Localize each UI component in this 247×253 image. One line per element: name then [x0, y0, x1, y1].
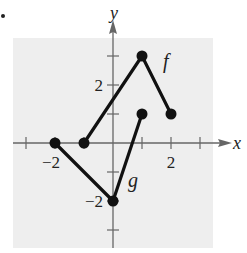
series-g-point [50, 138, 61, 149]
function-graph: −222−2xyfg [0, 0, 247, 253]
y-tick-label: −2 [85, 192, 103, 211]
x-tick-label: 2 [167, 153, 176, 172]
series-g-point [137, 109, 148, 120]
x-axis-label: x [232, 133, 241, 153]
x-axis-arrow-icon [218, 139, 232, 147]
x-tick-label: −2 [42, 153, 60, 172]
bullet-marker [1, 14, 5, 18]
y-tick-label: 2 [95, 76, 104, 95]
y-axis-label: y [108, 3, 118, 23]
series-g-point [108, 196, 119, 207]
series-f-point [166, 109, 177, 120]
series-f-point [79, 138, 90, 149]
series-f-point [137, 51, 148, 62]
series-g-label: g [128, 169, 138, 192]
